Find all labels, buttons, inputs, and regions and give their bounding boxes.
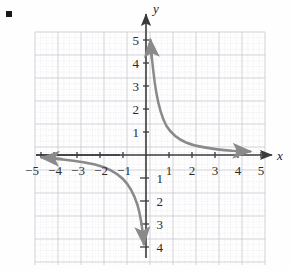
x-tick-label--5: −5 — [25, 163, 39, 178]
curve-left-branch-left-arrow — [42, 158, 62, 159]
x-tick-label-5: 5 — [258, 163, 265, 178]
y-tick-label-5: 5 — [133, 33, 140, 48]
graph-figure: y x −5 −4 −3 −2 −1 1 2 3 4 5 5 4 3 2 1 1… — [0, 0, 290, 271]
y-tick-label-2: 2 — [133, 102, 140, 117]
y-tick-label--3: 3 — [157, 217, 164, 232]
y-tick-label-3: 3 — [133, 79, 140, 94]
x-tick-label--2: −2 — [94, 163, 108, 178]
curve-right-branch-up-arrow — [150, 40, 151, 58]
x-axis-label: x — [276, 148, 283, 163]
x-tick-label-4: 4 — [235, 163, 242, 178]
x-tick-label--4: −4 — [48, 163, 62, 178]
y-tick-label-1: 1 — [133, 125, 140, 140]
y-tick-label--4: 4 — [157, 240, 164, 255]
x-tick-label-2: 2 — [189, 163, 196, 178]
y-axis-label: y — [151, 1, 159, 16]
y-tick-label--1: 1 — [157, 171, 164, 186]
y-tick-label-4: 4 — [133, 56, 140, 71]
x-tick-label--1: −1 — [117, 163, 131, 178]
x-tick-label-1: 1 — [166, 163, 173, 178]
coordinate-plane: y x −5 −4 −3 −2 −1 1 2 3 4 5 5 4 3 2 1 1… — [0, 0, 290, 271]
y-tick-label--2: 2 — [157, 194, 164, 209]
x-tick-label--3: −3 — [71, 163, 85, 178]
x-tick-label-3: 3 — [212, 163, 219, 178]
